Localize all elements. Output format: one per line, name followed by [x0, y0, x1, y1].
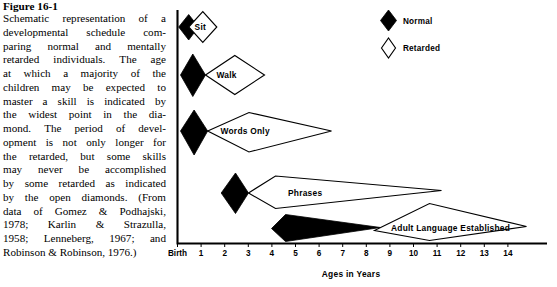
x-axis-tick-labels: Birth 1 2 3 4 5 6 7 8 9 10 11 12 13 14 — [168, 249, 513, 258]
caption-line: bysomeretardedasindicated — [3, 177, 166, 191]
normal-diamond-walk — [181, 54, 206, 97]
x-tick-label: 12 — [456, 249, 466, 258]
retarded-diamond-phrases — [249, 176, 442, 209]
x-tick-label: 5 — [293, 249, 298, 258]
x-tick-label: 13 — [480, 249, 490, 258]
x-tick-label: 9 — [388, 249, 393, 258]
normal-diamond-phrases — [221, 173, 248, 214]
caption-line: Robinson & Robinson, 1976.) — [3, 246, 166, 260]
figure-caption-column: Figure 16-1 Schematicrepresentationofa d… — [0, 0, 168, 287]
legend-filled-diamond-icon — [381, 10, 397, 31]
x-axis-title: Ages in Years — [322, 269, 381, 279]
figure-caption-text: Schematicrepresentationofa developmental… — [3, 12, 166, 260]
milestone-group-phrases: Phrases — [221, 173, 441, 214]
x-tick-label: 2 — [222, 249, 227, 258]
normal-diamond-words-only — [181, 110, 208, 155]
caption-line: mond.Theperiodofdevel- — [3, 122, 166, 136]
caption-line: bytheopendiamonds.(From — [3, 191, 166, 205]
x-tick-label: 6 — [317, 249, 322, 258]
caption-line: thewidestpointinthedia- — [3, 108, 166, 122]
milestone-group-adult-language: Adult Language Established — [272, 204, 527, 242]
chart-legend: Normal Retarded — [381, 10, 441, 58]
caption-line: opmentisnotonlylongerfor — [3, 136, 166, 150]
x-tick-label: 3 — [246, 249, 251, 258]
milestone-group-sit: Sit — [179, 12, 217, 43]
series-label-phrases: Phrases — [288, 188, 322, 198]
caption-line: theretarded,butsomeskills — [3, 150, 166, 164]
x-tick-label: 7 — [340, 249, 345, 258]
x-tick-label: 1 — [199, 249, 204, 258]
caption-line: Schematicrepresentationofa — [3, 12, 166, 26]
caption-line: 1978;Karlin&Strazulla, — [3, 218, 166, 232]
milestone-group-words-only: Words Only — [181, 110, 332, 155]
caption-line: mayneverbeaccomplished — [3, 163, 166, 177]
x-tick-label: 8 — [364, 249, 369, 258]
developmental-schedule-chart: Sit Walk Words Only Phrases — [168, 0, 557, 287]
caption-line: retardedindividuals.Theage — [3, 53, 166, 67]
normal-diamond-adult-language — [272, 215, 381, 242]
chart-area: Sit Walk Words Only Phrases — [168, 0, 557, 287]
caption-line: childrenmaybeexpectedto — [3, 81, 166, 95]
figure-number: Figure 16-1 — [3, 0, 165, 12]
figure-16-1-root: Figure 16-1 Schematicrepresentationofa d… — [0, 0, 557, 287]
x-tick-label: 4 — [270, 249, 275, 258]
caption-line: masteraskillisindicatedby — [3, 95, 166, 109]
series-label-words-only: Words Only — [221, 126, 270, 136]
legend-label-normal: Normal — [403, 17, 432, 26]
x-tick-label: 14 — [503, 249, 513, 258]
legend-label-retarded: Retarded — [403, 44, 440, 53]
caption-line: developmentalschedulecom- — [3, 26, 166, 40]
x-tick-label: 11 — [433, 249, 442, 258]
legend-open-diamond-icon — [382, 38, 396, 58]
series-label-adult-language: Adult Language Established — [391, 223, 510, 233]
x-tick-label: 10 — [409, 249, 419, 258]
caption-line: atwhichamajorityofthe — [3, 67, 166, 81]
series-label-walk: Walk — [217, 70, 237, 80]
series-label-sit: Sit — [195, 22, 206, 32]
caption-line: paringnormalandmentally — [3, 40, 166, 54]
x-tick-label: Birth — [168, 249, 187, 258]
milestone-group-walk: Walk — [181, 54, 265, 97]
caption-line: 1958;Lenneberg,1967;and — [3, 232, 166, 246]
caption-line: dataofGomez&Podhajski, — [3, 205, 166, 219]
